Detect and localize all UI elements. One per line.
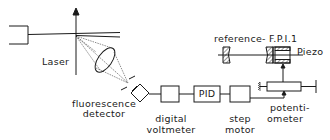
lens xyxy=(91,45,119,76)
fluorescence-detector-label-2: detector xyxy=(72,108,136,119)
fpi-stabilization-diagram: Laser fluorescence detector digital volt… xyxy=(0,0,330,140)
potentiometer-label-1: potenti- xyxy=(270,102,310,113)
digital-voltmeter-label-1: digital xyxy=(146,113,196,124)
aperture-top xyxy=(129,76,135,79)
laser-beam xyxy=(28,33,120,35)
fpi-mirror-left xyxy=(223,47,230,63)
potentiometer xyxy=(267,82,301,91)
fpi-mirror-right xyxy=(266,47,273,63)
digital-voltmeter-box xyxy=(161,86,179,102)
arrow-head-icon xyxy=(73,8,79,15)
potentiometer-label-2: ometer xyxy=(267,113,303,124)
ground-icon xyxy=(258,82,260,91)
reference-fpi-label: reference- F.P.I.1 xyxy=(214,33,297,44)
step-motor-label-1: step xyxy=(222,113,258,124)
step-motor-box xyxy=(230,86,250,102)
piezo-label: Piezo xyxy=(297,46,323,57)
laser-label: Laser xyxy=(42,56,69,67)
aperture-bottom xyxy=(121,87,127,90)
laser-source-box xyxy=(9,26,28,44)
pid-label: PID xyxy=(194,88,220,99)
step-motor-label-2: motor xyxy=(222,124,258,135)
digital-voltmeter-label-2: voltmeter xyxy=(146,124,196,135)
laser-beam-reflected xyxy=(76,36,120,38)
